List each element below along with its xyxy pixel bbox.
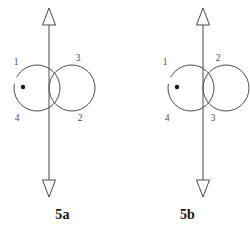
label-bottom-left: 4 bbox=[165, 113, 170, 123]
label-top-left: 1 bbox=[163, 57, 168, 67]
loop-left bbox=[168, 65, 214, 111]
label-bottom-left: 4 bbox=[15, 113, 20, 123]
knot-diagram-5a: 1 3 4 2 bbox=[0, 0, 125, 205]
basepoint-dot-icon bbox=[21, 85, 25, 89]
basepoint-dot-icon bbox=[175, 85, 179, 89]
label-top-right: 2 bbox=[216, 53, 221, 63]
arrowhead-up-icon bbox=[197, 8, 210, 25]
knot-diagram-5b: 1 2 4 3 bbox=[125, 0, 250, 205]
loop-left bbox=[14, 65, 60, 111]
arrowhead-down-icon bbox=[43, 180, 56, 197]
figure-panel-5b: 1 2 4 3 5b bbox=[125, 0, 250, 243]
figure-caption-5b: 5b bbox=[125, 207, 250, 223]
figure-caption-5a: 5a bbox=[0, 207, 125, 223]
arrowhead-down-icon bbox=[197, 180, 210, 197]
label-top-right: 3 bbox=[76, 53, 81, 63]
arrowhead-up-icon bbox=[43, 8, 56, 25]
label-top-left: 1 bbox=[14, 57, 19, 67]
loop-right bbox=[49, 65, 95, 111]
label-bottom-right: 3 bbox=[211, 113, 216, 123]
loop-right bbox=[203, 65, 249, 111]
figure-panel-5a: 1 3 4 2 5a bbox=[0, 0, 125, 243]
figure-board: 1 3 4 2 5a 1 2 4 3 5b bbox=[0, 0, 250, 243]
label-bottom-right: 2 bbox=[78, 113, 83, 123]
